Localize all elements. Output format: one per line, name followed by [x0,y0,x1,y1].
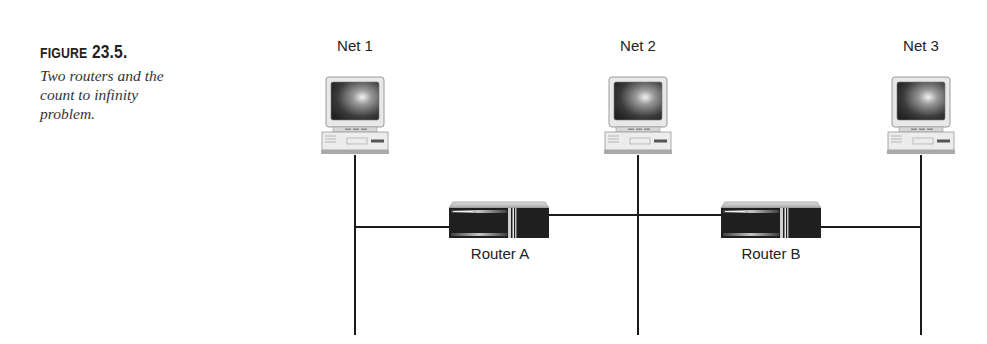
router-icon-b [721,202,821,238]
net1-label: Net 1 [337,37,373,54]
network-diagram [0,0,987,344]
router-icon-a [449,202,549,238]
net3-label: Net 3 [903,37,939,54]
net2-label: Net 2 [620,37,656,54]
computer-icon-net2 [604,77,672,154]
router-a-label: Router A [471,245,529,262]
router-b-label: Router B [741,245,800,262]
computer-icon-net3 [887,77,955,154]
computer-icon-net1 [321,77,389,154]
